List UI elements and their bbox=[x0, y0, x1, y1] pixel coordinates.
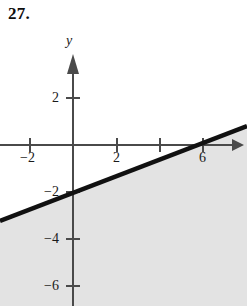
y-axis-label: y bbox=[66, 33, 72, 49]
y-tick-label--6: −6 bbox=[44, 278, 59, 294]
y-tick-label-2: 2 bbox=[52, 90, 59, 106]
x-tick-label--2: −2 bbox=[20, 150, 35, 166]
x-tick-label-2: 2 bbox=[113, 150, 120, 166]
coordinate-plane bbox=[0, 0, 247, 306]
x-tick-label-6: 6 bbox=[199, 150, 206, 166]
shaded-region bbox=[0, 126, 247, 306]
y-tick-label--2: −2 bbox=[44, 184, 59, 200]
graph-figure: 27. y −2 2 6 2 −2 −4 −6 bbox=[0, 0, 247, 306]
y-tick-label--4: −4 bbox=[44, 231, 59, 247]
y-axis-arrowhead bbox=[67, 54, 79, 74]
